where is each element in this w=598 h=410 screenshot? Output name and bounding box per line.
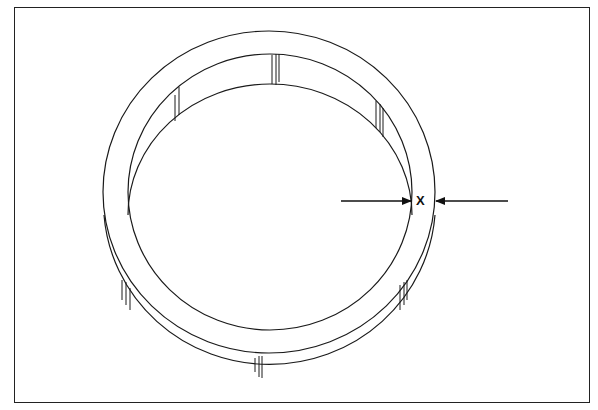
ring-inner-bottom-edge [128,84,412,215]
ring-inner-top-edge [128,54,412,330]
ring-outer-top-edge [103,31,435,353]
ring-diagram [0,0,598,410]
dimension-label-x: X [416,193,425,208]
ring-outer-bottom-edge [104,215,435,364]
